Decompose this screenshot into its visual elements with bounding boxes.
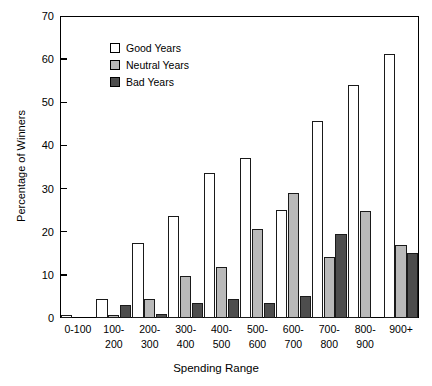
y-tick-label: 60 <box>24 51 54 67</box>
bar <box>204 173 215 318</box>
y-tick-label: 50 <box>24 94 54 110</box>
bars-layer <box>60 16 419 318</box>
bar <box>252 229 263 318</box>
bar <box>228 299 239 318</box>
bar-group <box>132 16 168 318</box>
bar <box>276 210 287 318</box>
bar <box>395 245 406 318</box>
bar <box>96 299 107 318</box>
x-axis-label: 900+ <box>379 322 423 337</box>
y-tick-label: 40 <box>24 137 54 153</box>
y-tick-label: 30 <box>24 181 54 197</box>
bar <box>360 211 371 318</box>
bar-chart: Percentage of Winners 010203040506070 Go… <box>0 0 432 386</box>
bar <box>264 303 275 318</box>
bar-group <box>204 16 240 318</box>
bar-group <box>275 16 311 318</box>
bar <box>300 296 311 318</box>
bar <box>168 216 179 318</box>
bar <box>407 253 418 318</box>
bar-group <box>60 16 96 318</box>
bar <box>335 234 346 318</box>
bar <box>156 314 167 318</box>
y-tick-label: 0 <box>24 310 54 326</box>
bar <box>120 305 131 318</box>
y-tick-label: 10 <box>24 267 54 283</box>
bar <box>192 303 203 318</box>
bar-group <box>168 16 204 318</box>
y-tick-label: 20 <box>24 224 54 240</box>
bar-group <box>96 16 132 318</box>
x-axis-labels: 0-100100-200200-300300-400400-500500-600… <box>60 322 419 358</box>
bar <box>348 85 359 318</box>
bar-group <box>347 16 383 318</box>
bar-group <box>240 16 276 318</box>
bar <box>144 299 155 318</box>
bar-group <box>383 16 419 318</box>
bar <box>180 276 191 318</box>
bar-group <box>311 16 347 318</box>
bar <box>216 267 227 318</box>
bar <box>132 243 143 318</box>
bar <box>61 315 72 318</box>
bar <box>324 257 335 318</box>
y-tick-label: 70 <box>24 8 54 24</box>
bar <box>312 121 323 318</box>
x-axis-title: Spending Range <box>0 362 432 374</box>
bar <box>108 315 119 318</box>
bar <box>288 193 299 318</box>
bar <box>240 158 251 318</box>
bar <box>384 54 395 318</box>
